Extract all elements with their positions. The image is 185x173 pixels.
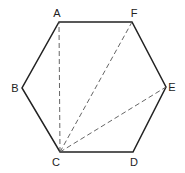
vertex-label-a: A xyxy=(53,7,61,19)
diagonal-cf xyxy=(60,22,132,152)
vertex-label-e: E xyxy=(168,81,175,93)
vertex-label-b: B xyxy=(11,82,18,94)
hexagon-diagram: A F E D C B xyxy=(0,0,185,173)
vertex-label-c: C xyxy=(52,156,60,168)
hexagon-outline xyxy=(22,22,166,152)
diagonals xyxy=(59,22,166,152)
diagonal-ca xyxy=(59,22,60,152)
vertex-labels: A F E D C B xyxy=(11,7,175,168)
vertex-label-f: F xyxy=(131,7,138,19)
vertex-label-d: D xyxy=(130,156,138,168)
